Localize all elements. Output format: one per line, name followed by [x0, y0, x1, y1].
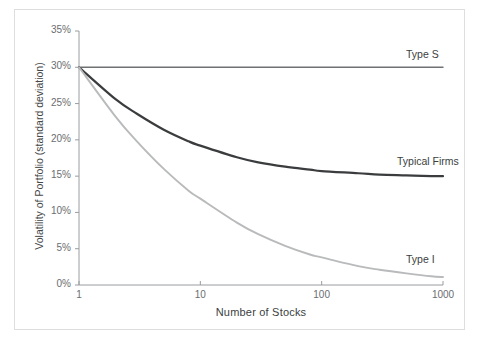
chart-figure: Volatility of Portfolio (standard deviat… [0, 0, 479, 344]
series-lines [79, 67, 443, 277]
series-line [79, 67, 443, 277]
plot-area [0, 0, 479, 344]
series-line [79, 67, 443, 176]
axes [75, 31, 443, 285]
